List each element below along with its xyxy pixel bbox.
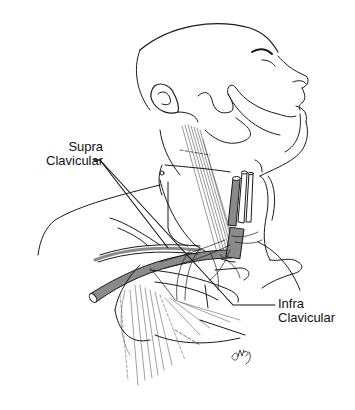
infraclavicular-label-line-2: Clavicular	[278, 311, 335, 325]
neck-muscles	[182, 125, 235, 256]
anatomy-illustration	[0, 0, 355, 410]
head-outline	[136, 24, 308, 176]
infraclavicular-label-line-1: Infra	[278, 297, 335, 311]
supra-leader	[94, 160, 168, 248]
anterior-neck	[255, 160, 302, 290]
artist-signature	[232, 350, 250, 364]
deltoid-fibers	[120, 285, 240, 385]
infraclavicular-label: Infra Clavicular	[278, 297, 335, 325]
lower-chest	[115, 310, 245, 345]
supraclavicular-label-line-1: Supra	[46, 140, 103, 154]
supraclavicular-label: Supra Clavicular	[46, 140, 103, 168]
supraclavicular-label-line-2: Clavicular	[46, 154, 103, 168]
